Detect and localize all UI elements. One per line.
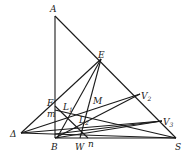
label-m: m [47, 109, 56, 119]
label-V2: V2 [141, 91, 152, 102]
label-L2: L2 [78, 115, 89, 126]
label-Delta: Δ [9, 129, 17, 139]
label-F: F [46, 98, 54, 108]
label-E: E [97, 50, 105, 60]
label-S: S [175, 142, 181, 152]
segment-B-upper [55, 121, 162, 134]
label-W: W [75, 142, 85, 152]
label-V3: V3 [163, 117, 174, 128]
label-L1: L1 [62, 102, 73, 113]
geometry-diagram: A E V2 V3 S B Δ F m M L1 L2 W n [0, 0, 194, 161]
segment-DE [21, 59, 101, 133]
segment-DS [21, 133, 176, 138]
label-n: n [88, 139, 94, 149]
label-A: A [49, 4, 57, 14]
segment-AS [55, 16, 176, 138]
label-B: B [50, 142, 58, 152]
segment-DV3 [21, 121, 162, 133]
label-M: M [92, 96, 103, 106]
